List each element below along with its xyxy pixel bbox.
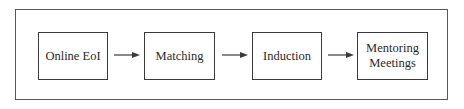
step-online-eoi: Online EoI	[38, 32, 108, 80]
arrow-right-icon	[327, 50, 355, 60]
step-mentoring-meetings: Mentoring Meetings	[357, 32, 428, 80]
step-label: Matching	[156, 49, 204, 64]
step-matching: Matching	[144, 32, 215, 80]
step-label-line-2: Meetings	[369, 56, 416, 71]
step-label: Induction	[263, 49, 311, 64]
step-label: Online EoI	[45, 49, 100, 64]
step-induction: Induction	[252, 32, 322, 80]
step-label-line-1: Mentoring	[366, 41, 419, 56]
arrow-right-icon	[113, 50, 141, 60]
arrow-right-icon	[221, 50, 249, 60]
